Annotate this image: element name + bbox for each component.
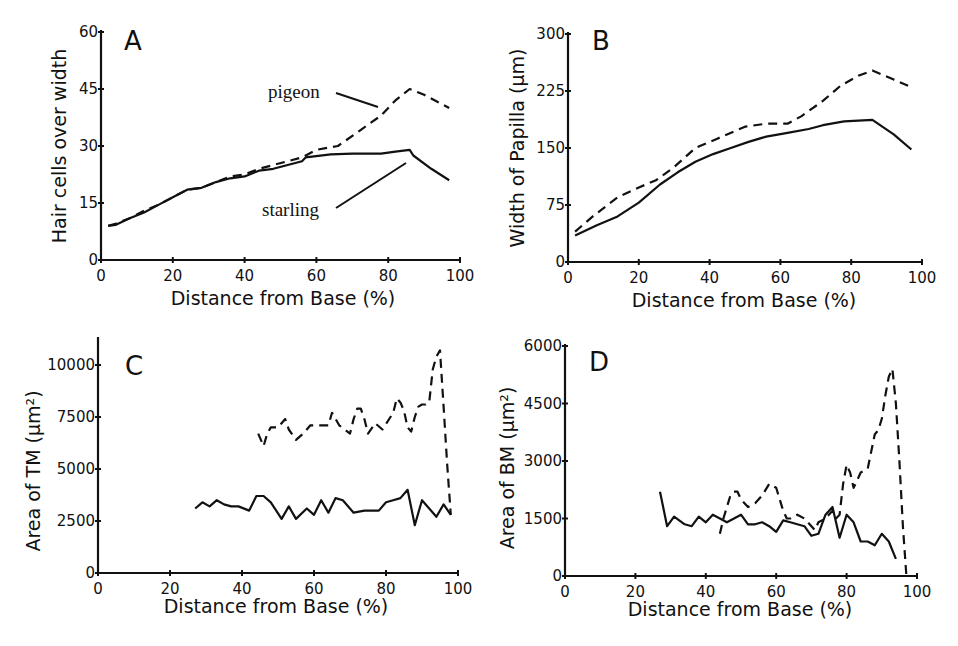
x-tick-label: 60	[307, 267, 326, 285]
x-tick-label: 100	[908, 269, 937, 287]
y-axis-title: Width of Papilla (μm)	[506, 49, 528, 248]
x-tick-label: 100	[446, 267, 475, 285]
y-tick-label: 60	[79, 23, 98, 41]
pigeon-leader-line	[336, 93, 378, 107]
y-tick-label: 2500	[57, 512, 95, 530]
y-tick-label: 7500	[57, 408, 95, 426]
x-tick-label: 0	[560, 583, 570, 601]
plot-area: 020406080100015304560	[79, 23, 474, 285]
panel-a-chart: 020406080100015304560 A Hair cells over …	[0, 0, 479, 323]
pigeon-series-line	[575, 71, 911, 232]
y-tick-label: 30	[79, 137, 98, 155]
x-axis-title: Distance from Base (%)	[628, 598, 853, 620]
panel-letter: B	[592, 26, 610, 56]
starling-series-line	[660, 492, 896, 559]
y-tick-label: 75	[546, 196, 565, 214]
y-tick-label: 6000	[524, 337, 562, 355]
y-tick-label: 150	[536, 139, 565, 157]
x-tick-label: 100	[903, 583, 932, 601]
panel-d-chart: 02040608010001500300045006000 D Area of …	[479, 323, 958, 646]
y-tick-label: 0	[552, 567, 562, 585]
pigeon-series-line	[720, 369, 907, 576]
x-tick-label: 40	[235, 267, 254, 285]
y-tick-label: 300	[536, 25, 565, 43]
x-tick-label: 60	[771, 269, 790, 287]
starling-series-line	[575, 120, 911, 235]
starling-annotation: starling	[262, 199, 319, 220]
y-axis-title: Hair cells over width	[48, 49, 70, 243]
panel-letter: D	[589, 347, 609, 377]
panel-c-chart: 020406080100025005000750010000 C Area of…	[0, 323, 479, 646]
x-tick-label: 0	[563, 269, 573, 287]
x-tick-label: 20	[629, 269, 648, 287]
x-tick-label: 20	[163, 267, 182, 285]
panel-b-chart: 020406080100075150225300 B Width of Papi…	[479, 0, 958, 323]
pigeon-annotation: pigeon	[268, 81, 320, 102]
y-tick-label: 10000	[47, 356, 95, 374]
y-tick-label: 3000	[524, 452, 562, 470]
y-tick-label: 4500	[524, 395, 562, 413]
x-tick-label: 40	[700, 269, 719, 287]
x-axis-title: Distance from Base (%)	[632, 289, 857, 311]
y-tick-label: 1500	[524, 510, 562, 528]
y-tick-label: 0	[85, 564, 95, 582]
x-axis-title: Distance from Base (%)	[171, 287, 396, 309]
y-tick-label: 0	[555, 253, 565, 271]
x-tick-label: 80	[842, 269, 861, 287]
plot-area: 020406080100025005000750010000	[47, 337, 472, 598]
starling-leader-line	[336, 163, 406, 208]
y-tick-label: 225	[536, 82, 565, 100]
y-tick-label: 45	[79, 80, 98, 98]
plot-area: 020406080100075150225300	[536, 25, 936, 287]
pigeon-series-line	[258, 350, 451, 514]
y-tick-label: 15	[79, 194, 98, 212]
x-tick-label: 80	[379, 267, 398, 285]
y-tick-label: 0	[88, 251, 98, 269]
panel-letter: C	[125, 351, 143, 381]
x-axis-title: Distance from Base (%)	[164, 595, 389, 617]
x-tick-label: 100	[444, 580, 473, 598]
panel-letter: A	[124, 26, 142, 56]
starling-series-line	[195, 490, 451, 525]
x-tick-label: 0	[93, 580, 103, 598]
y-axis-title: Area of BM (μm²)	[496, 387, 518, 550]
plot-area: 02040608010001500300045006000	[524, 337, 932, 601]
y-tick-label: 5000	[57, 460, 95, 478]
x-tick-label: 0	[96, 267, 106, 285]
y-axis-title: Area of TM (μm²)	[22, 390, 44, 551]
